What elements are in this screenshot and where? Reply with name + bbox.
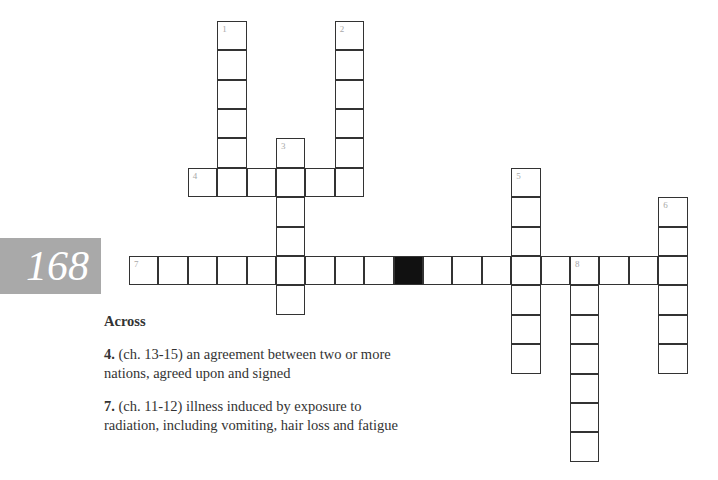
crossword-cell[interactable] — [511, 344, 540, 373]
crossword-cell[interactable] — [541, 256, 570, 285]
crossword-cell[interactable] — [482, 256, 511, 285]
clues-heading-across: Across — [104, 313, 404, 330]
crossword-cell[interactable] — [335, 109, 364, 138]
crossword-cell[interactable] — [570, 344, 599, 373]
crossword-cell[interactable] — [247, 256, 276, 285]
crossword-cell[interactable] — [570, 403, 599, 432]
crossword-cell[interactable] — [599, 256, 628, 285]
crossword-cell[interactable] — [511, 315, 540, 344]
crossword-cell[interactable] — [188, 256, 217, 285]
crossword-cell[interactable] — [335, 168, 364, 197]
crossword-cell[interactable]: 8 — [570, 256, 599, 285]
crossword-cell[interactable] — [658, 256, 687, 285]
crossword-cell[interactable]: 4 — [188, 168, 217, 197]
clue-number-label: 7 — [134, 259, 139, 269]
crossword-cell[interactable] — [335, 50, 364, 79]
crossword-cell[interactable] — [511, 227, 540, 256]
crossword-cell[interactable] — [276, 285, 305, 314]
crossword-cell[interactable] — [335, 256, 364, 285]
crossword-cell[interactable]: 7 — [129, 256, 158, 285]
clue-number-label: 8 — [575, 259, 580, 269]
clue-number-label: 1 — [222, 24, 227, 34]
crossword-cell[interactable]: 1 — [217, 21, 246, 50]
crossword-cell[interactable] — [335, 80, 364, 109]
crossword-cell[interactable] — [217, 50, 246, 79]
crossword-cell[interactable] — [276, 197, 305, 226]
crossword-cell[interactable] — [217, 256, 246, 285]
crossword-cell[interactable] — [305, 168, 334, 197]
crossword-cell[interactable] — [364, 256, 393, 285]
crossword-cell[interactable]: 3 — [276, 138, 305, 167]
clue-7-across: 7. (ch. 11-12) illness induced by exposu… — [104, 397, 404, 435]
crossword-cell[interactable] — [305, 256, 334, 285]
crossword-cell[interactable] — [629, 256, 658, 285]
crossword-cell[interactable] — [217, 168, 246, 197]
clue-number-label: 5 — [516, 171, 521, 181]
crossword-cell[interactable] — [658, 344, 687, 373]
crossword-cell[interactable] — [511, 285, 540, 314]
crossword-cell[interactable] — [276, 256, 305, 285]
clue-number-label: 6 — [663, 200, 668, 210]
clue-number-label: 2 — [340, 24, 345, 34]
crossword-cell[interactable] — [511, 197, 540, 226]
crossword-cell[interactable] — [217, 138, 246, 167]
crossword-cell[interactable]: 6 — [658, 197, 687, 226]
clue-text: (ch. 13-15) an agreement between two or … — [104, 346, 391, 381]
clue-4-across: 4. (ch. 13-15) an agreement between two … — [104, 345, 404, 383]
crossword-cell[interactable] — [276, 168, 305, 197]
clue-number-label: 3 — [281, 141, 286, 151]
crossword-cell[interactable] — [335, 138, 364, 167]
crossword-cell[interactable] — [511, 256, 540, 285]
crossword-cell[interactable] — [570, 285, 599, 314]
crossword-cell[interactable] — [658, 315, 687, 344]
crossword-cell[interactable] — [658, 285, 687, 314]
crossword-cell[interactable] — [217, 109, 246, 138]
crossword-cell[interactable] — [658, 227, 687, 256]
clue-text: (ch. 11-12) illness induced by exposure … — [104, 398, 398, 433]
crossword-cell[interactable] — [570, 432, 599, 461]
clue-number-label: 4 — [193, 171, 198, 181]
crossword-cell[interactable] — [158, 256, 187, 285]
crossword-cell[interactable]: 5 — [511, 168, 540, 197]
crossword-cell[interactable]: 2 — [335, 21, 364, 50]
crossword-cell[interactable] — [452, 256, 481, 285]
clue-number: 4. — [104, 346, 115, 362]
crossword-cell[interactable] — [217, 80, 246, 109]
crossword-cell[interactable] — [276, 227, 305, 256]
crossword-cell[interactable] — [423, 256, 452, 285]
crossword-black-cell — [394, 256, 423, 285]
clue-number: 7. — [104, 398, 115, 414]
crossword-cell[interactable] — [570, 374, 599, 403]
clues-panel: Across 4. (ch. 13-15) an agreement betwe… — [104, 313, 404, 449]
crossword-cell[interactable] — [570, 315, 599, 344]
crossword-cell[interactable] — [247, 168, 276, 197]
